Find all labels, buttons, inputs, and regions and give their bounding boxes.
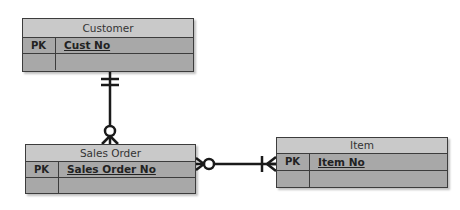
zero-circle-icon <box>105 126 115 136</box>
entity-row: PK Item No <box>277 154 447 171</box>
attribute <box>56 54 193 70</box>
key-label <box>277 171 310 187</box>
key-label: PK <box>26 162 59 177</box>
entity-title: Sales Order <box>26 145 195 162</box>
key-label <box>23 54 56 70</box>
entity-customer[interactable]: Customer PK Cust No <box>22 18 194 72</box>
entity-item[interactable]: Item PK Item No <box>276 137 448 188</box>
entity-title: Customer <box>23 19 193 38</box>
salesorder-item-relationship <box>196 156 276 172</box>
customer-salesorder-relationship <box>101 72 119 144</box>
key-label: PK <box>277 154 310 170</box>
zero-circle-icon <box>204 159 214 169</box>
key-label <box>26 178 59 193</box>
entity-title: Item <box>277 138 447 154</box>
attribute: Item No <box>310 154 447 170</box>
entity-row: PK Cust No <box>23 38 193 54</box>
attribute <box>310 171 447 187</box>
attribute: Sales Order No <box>59 162 195 177</box>
entity-sales-order[interactable]: Sales Order PK Sales Order No <box>25 144 196 194</box>
attribute: Cust No <box>56 38 193 53</box>
entity-row <box>26 178 195 193</box>
attribute <box>59 178 195 193</box>
entity-row <box>23 54 193 70</box>
entity-row <box>277 171 447 187</box>
key-label: PK <box>23 38 56 53</box>
entity-row: PK Sales Order No <box>26 162 195 178</box>
